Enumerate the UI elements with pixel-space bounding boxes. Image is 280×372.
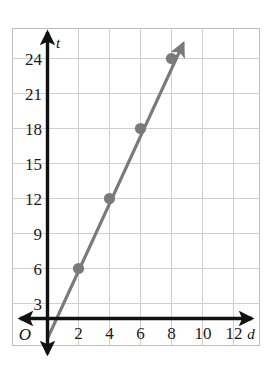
origin-label: O [19,325,31,344]
x-tick-label-12: 12 [226,324,243,343]
x-tick-label-6: 6 [136,324,145,343]
x-axis-label: d [247,326,255,342]
x-tick-label-8: 8 [167,324,176,343]
y-tick-label-12: 12 [25,190,42,209]
figure-canvas: 24 21 18 15 12 9 6 3 2 4 6 8 10 12 t d O [0,0,280,372]
data-point-8-24 [166,53,177,64]
data-point-6-18 [135,123,146,134]
data-point-2-6 [73,263,84,274]
grid-border [13,29,260,346]
y-tick-label-18: 18 [25,120,42,139]
coordinate-plane-graph: 24 21 18 15 12 9 6 3 2 4 6 8 10 12 t d O [0,0,280,372]
y-tick-label-6: 6 [34,260,43,279]
y-tick-label-15: 15 [25,155,42,174]
x-tick-label-2: 2 [74,324,83,343]
y-tick-label-3: 3 [34,295,43,314]
y-tick-label-24: 24 [25,50,43,69]
y-tick-label-21: 21 [25,85,42,104]
y-tick-label-9: 9 [34,225,43,244]
x-tick-label-10: 10 [195,324,212,343]
data-point-4-12 [104,193,115,204]
x-tick-label-4: 4 [105,324,114,343]
